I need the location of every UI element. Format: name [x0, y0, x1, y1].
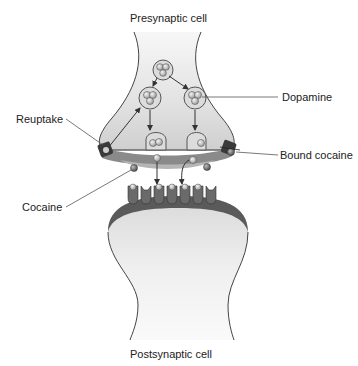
- label-reuptake: Reuptake: [16, 113, 63, 125]
- label-dopamine: Dopamine: [282, 91, 332, 103]
- vesicle-docked-left: [146, 133, 166, 151]
- postsynaptic-cell: [108, 196, 248, 340]
- label-cocaine: Cocaine: [22, 201, 62, 213]
- receptor-bound-molecules: [130, 184, 201, 190]
- synapse-diagram: [0, 0, 358, 366]
- label-bound-cocaine: Bound cocaine: [280, 149, 353, 161]
- vesicle-docked-right: [187, 133, 206, 151]
- vesicle-right: [184, 87, 206, 109]
- label-presynaptic-cell: Presynaptic cell: [130, 12, 207, 24]
- vesicle-left: [139, 87, 161, 109]
- presynaptic-cell: [99, 32, 234, 169]
- label-postsynaptic-cell: Postsynaptic cell: [130, 348, 212, 360]
